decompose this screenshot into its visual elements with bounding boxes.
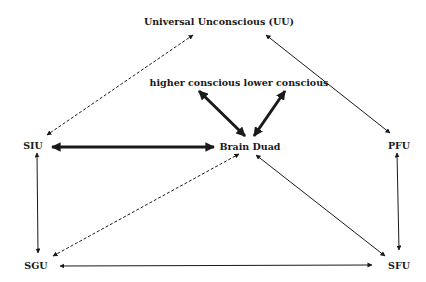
edge-sfu-brain (256, 155, 385, 256)
node-brain-duad: Brain Duad (220, 141, 281, 152)
edge-pfu-sfu (397, 153, 399, 250)
node-lower-conscious: lower conscious (244, 77, 329, 88)
edge-sgu-brain (53, 154, 239, 256)
nodes: Universal Unconscious (UU) higher consci… (23, 16, 411, 271)
node-pfu: PFU (388, 140, 411, 151)
node-sfu: SFU (388, 260, 411, 271)
node-higher-conscious: higher conscious (150, 77, 241, 88)
diagram-canvas: Universal Unconscious (UU) higher consci… (0, 0, 426, 282)
edge-sgu-sfu (60, 265, 372, 266)
edge-brain-higher (199, 91, 245, 136)
node-siu: SIU (23, 140, 43, 151)
node-sgu: SGU (24, 260, 48, 271)
node-universal-unconscious: Universal Unconscious (UU) (144, 16, 294, 27)
edge-siu-sgu (37, 153, 38, 253)
edges (37, 35, 399, 266)
edge-brain-lower (254, 91, 285, 136)
